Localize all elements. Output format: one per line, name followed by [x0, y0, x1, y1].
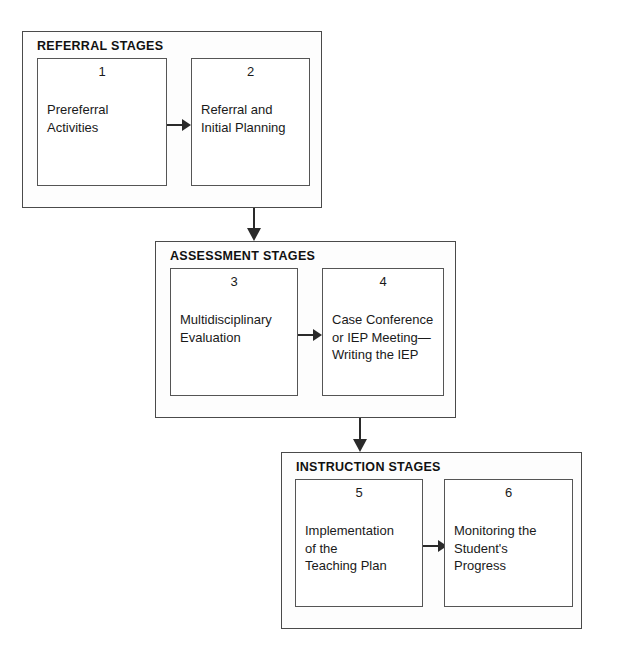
stage-number-2: 2: [192, 64, 309, 79]
flowchart-diagram: REFERRAL STAGES 1 Prereferral Activities…: [0, 0, 622, 660]
stage-number-4: 4: [323, 274, 443, 289]
stage-text-2: Referral and Initial Planning: [201, 101, 303, 136]
arrow-shaft: [423, 545, 439, 547]
arrow-shaft: [359, 418, 361, 440]
arrow-shaft: [167, 124, 183, 126]
stage-number-5: 5: [296, 485, 422, 500]
arrow-shaft: [298, 334, 314, 336]
arrow-stage-1-to-2: [167, 119, 191, 131]
arrow-stage-3-to-4: [298, 329, 322, 341]
stage-box-6: 6 Monitoring the Student's Progress: [444, 479, 573, 607]
stage-text-6: Monitoring the Student's Progress: [454, 522, 566, 575]
stage-box-4: 4 Case Conference or IEP Meeting— Writin…: [322, 268, 444, 396]
group-label-referral-stages: REFERRAL STAGES: [37, 39, 163, 53]
group-label-instruction-stages: INSTRUCTION STAGES: [296, 460, 441, 474]
stage-box-1: 1 Prereferral Activities: [37, 58, 167, 186]
arrow-head: [247, 228, 261, 241]
group-label-assessment-stages: ASSESSMENT STAGES: [170, 249, 315, 263]
stage-number-6: 6: [445, 485, 572, 500]
arrow-referral-to-assessment: [247, 208, 261, 241]
group-instruction-stages: INSTRUCTION STAGES 5 Implementation of t…: [281, 452, 582, 629]
stage-box-5: 5 Implementation of the Teaching Plan: [295, 479, 423, 607]
group-referral-stages: REFERRAL STAGES 1 Prereferral Activities…: [22, 31, 322, 208]
stage-number-3: 3: [171, 274, 297, 289]
stage-text-3: Multidisciplinary Evaluation: [180, 311, 291, 346]
arrow-head: [182, 119, 191, 131]
stage-text-1: Prereferral Activities: [47, 101, 160, 136]
arrow-assessment-to-instruction: [353, 418, 367, 452]
stage-text-4: Case Conference or IEP Meeting— Writing …: [332, 311, 437, 364]
arrow-shaft: [253, 208, 255, 229]
arrow-head: [313, 329, 322, 341]
group-assessment-stages: ASSESSMENT STAGES 3 Multidisciplinary Ev…: [155, 241, 456, 418]
stage-text-5: Implementation of the Teaching Plan: [305, 522, 416, 575]
arrow-head: [353, 439, 367, 452]
stage-number-1: 1: [38, 64, 166, 79]
stage-box-2: 2 Referral and Initial Planning: [191, 58, 310, 186]
stage-box-3: 3 Multidisciplinary Evaluation: [170, 268, 298, 396]
